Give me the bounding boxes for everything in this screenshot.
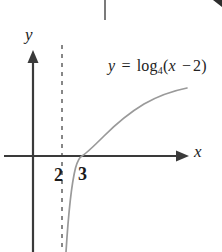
equation-minus-sign: − (180, 57, 193, 74)
equation-annotation: y = log4(x −2) (108, 58, 207, 74)
curve-layer (0, 0, 222, 252)
tick-label-3: 3 (78, 165, 87, 183)
axis-label-x: x (194, 143, 202, 160)
tick-label-2: 2 (54, 166, 63, 184)
equation-constant: 2 (193, 57, 201, 74)
equation-close-paren: ) (201, 57, 207, 74)
equation-function-name: log (137, 57, 158, 74)
equation-equals: = (120, 57, 133, 74)
equation-lhs: y (108, 57, 115, 74)
equation-base: 4 (158, 65, 163, 76)
log-function-figure: y x 2 3 y = log4(x −2) (0, 0, 222, 252)
axis-label-y: y (25, 26, 33, 43)
equation-variable: x (169, 57, 176, 74)
